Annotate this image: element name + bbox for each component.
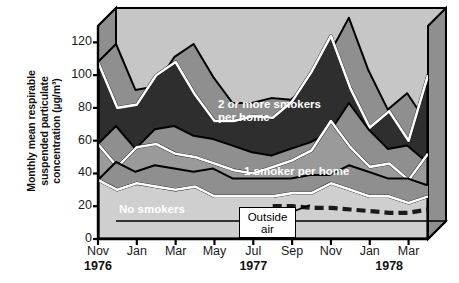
chart-figure: Monthly mean respirable suspended partic… xyxy=(0,0,459,283)
series-label-one-smoker: 1 smoker per home xyxy=(244,165,349,178)
x-year-label: 1977 xyxy=(239,259,267,273)
x-tick-label: Jan xyxy=(127,244,147,258)
series-label-two-or-more-smokers: 2 or more smokers per home xyxy=(218,98,321,123)
x-tick-label: May xyxy=(203,244,227,258)
x-tick-label: Jul xyxy=(245,244,261,258)
x-tick-label: Mar xyxy=(398,244,420,258)
x-tick-label: Nov xyxy=(320,244,342,258)
series-label-no-smokers: No smokers xyxy=(119,203,185,216)
chart-plot-area xyxy=(0,0,459,283)
x-tick-label: Sep xyxy=(281,244,303,258)
series-label-outside-air-box: Outside air xyxy=(239,207,296,238)
plot-right-wall xyxy=(428,8,446,239)
x-tick-label: Jan xyxy=(360,244,380,258)
outside-air-line-1: Outside xyxy=(248,211,288,223)
x-tick-label: Mar xyxy=(165,244,187,258)
x-axis-year-labels: 197619771978 xyxy=(0,259,459,277)
x-tick-label: Nov xyxy=(87,244,109,258)
outside-air-line-2: air xyxy=(261,223,274,235)
x-year-label: 1976 xyxy=(84,259,112,273)
x-year-label: 1978 xyxy=(375,259,403,273)
